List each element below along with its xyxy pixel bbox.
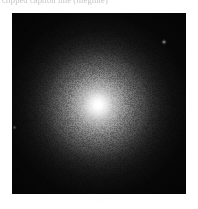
core-peak	[92, 99, 105, 112]
image-panel[interactable]	[12, 13, 186, 194]
caption-strip: clipped caption line (illegible)	[0, 0, 198, 7]
halo-mid	[34, 42, 162, 168]
point-source-2	[12, 125, 17, 130]
vignette-overlay	[12, 13, 186, 194]
halo-inner	[66, 74, 130, 137]
halo-outer	[12, 13, 186, 194]
caption-text: clipped caption line (illegible)	[2, 0, 196, 5]
figure-root: clipped caption line (illegible) ·	[0, 0, 198, 209]
detector-noise-overlay	[12, 13, 186, 194]
footer-mark: ·	[0, 198, 198, 207]
point-source-1	[161, 39, 167, 45]
core-glow	[83, 90, 113, 120]
